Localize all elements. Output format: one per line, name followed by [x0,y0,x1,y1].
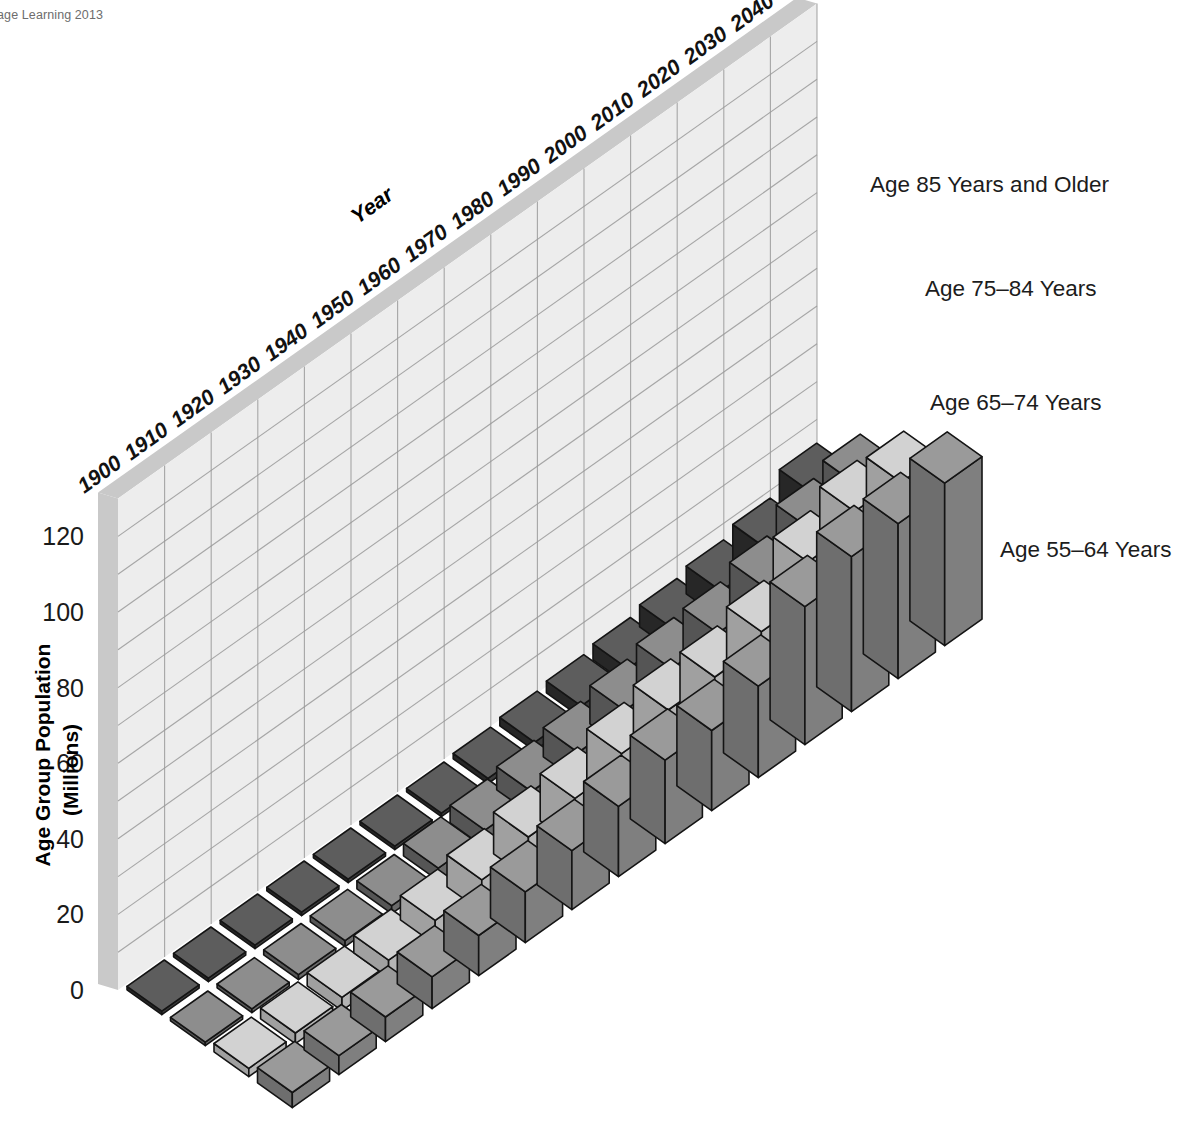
y-tick-label-100: 100 [42,598,84,626]
chart-svg: 020406080100120Age Group Population(Mill… [0,0,1181,1124]
y-axis-title-line2: (Millions) [59,724,82,816]
y-tick-label-120: 120 [42,522,84,550]
series-label-3: Age 55–64 Years [1000,537,1171,562]
bar-2040-r3-left-face [910,458,945,645]
series-label-2: Age 65–74 Years [930,390,1101,415]
y-tick-label-80: 80 [56,674,84,702]
wall-left-edge [98,493,118,990]
series-label-0: Age 85 Years and Older [870,172,1109,197]
series-label-1: Age 75–84 Years [925,276,1096,301]
bar-2040-r3-front-face [945,457,982,646]
y-tick-label-40: 40 [56,825,84,853]
y-axis-title-line1: Age Group Population [31,644,54,867]
x-axis-title: Year [347,182,400,229]
chart-3d-bar: 020406080100120Age Group Population(Mill… [0,0,1181,1124]
bar-2030-r3-left-face [863,499,898,679]
bar-2020-r3-left-face [817,532,852,712]
y-tick-label-0: 0 [70,976,84,1004]
y-tick-label-20: 20 [56,900,84,928]
bar-2010-r3-left-face [770,582,805,745]
